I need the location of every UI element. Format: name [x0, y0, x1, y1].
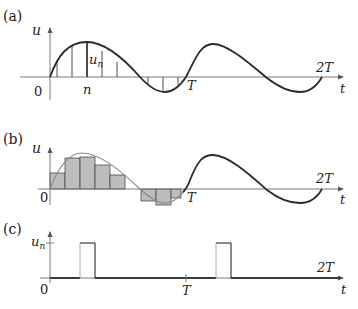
- panel-a-period-label: T: [187, 78, 197, 93]
- panel-b-period-label: T: [187, 190, 197, 205]
- panel-b-signal-curve: [183, 155, 322, 203]
- panel-c-origin-label: 0: [40, 282, 48, 297]
- panel-c: (c) un 0 T 2T t: [3, 221, 347, 298]
- panel-b-label: (b): [3, 131, 23, 147]
- panel-c-double-period-label: 2T: [316, 260, 335, 275]
- panel-b-hold-bars: [50, 157, 181, 205]
- panel-a-sample-value-label: un: [89, 52, 103, 69]
- panel-c-y-axis-label: un: [31, 234, 45, 251]
- panel-c-pulse-1: [80, 243, 95, 278]
- panel-c-pulse-2: [216, 243, 231, 278]
- panel-a-origin-label: 0: [34, 84, 42, 99]
- panel-a-x-axis-label: t: [340, 81, 346, 96]
- panel-a-sample-stems: [57, 43, 178, 91]
- sampling-diagram: (a) u 0 n un T 2T t (b) u: [0, 0, 358, 309]
- panel-b-y-axis-label: u: [32, 140, 41, 156]
- panel-c-x-axis-label: t: [341, 282, 347, 297]
- panel-c-period-label: T: [182, 283, 192, 298]
- panel-a-label: (a): [3, 8, 22, 24]
- panel-b-double-period-label: 2T: [315, 171, 334, 186]
- panel-c-label: (c): [3, 221, 22, 237]
- panel-b: (b) u 0 T 2T t: [3, 131, 346, 207]
- panel-a-sample-index-label: n: [83, 82, 91, 97]
- panel-a-y-axis-label: u: [32, 22, 41, 38]
- panel-b-origin-label: 0: [40, 190, 48, 205]
- panel-b-x-axis-label: t: [340, 192, 346, 207]
- panel-a-double-period-label: 2T: [315, 60, 334, 75]
- panel-a: (a) u 0 n un T 2T t: [3, 8, 346, 100]
